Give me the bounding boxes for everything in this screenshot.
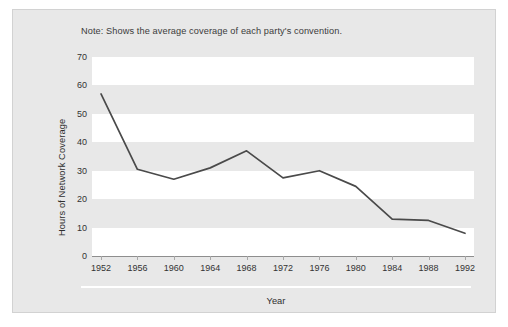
- plot-area: [92, 57, 474, 256]
- x-axis-tick-label: 1968: [227, 263, 267, 273]
- x-axis-tick: [319, 256, 320, 260]
- x-axis-title: Year: [81, 296, 471, 306]
- y-axis-title: Hours of Network Coverage: [57, 36, 67, 236]
- x-axis-tick: [429, 256, 430, 260]
- x-axis-tick-label: 1976: [299, 263, 339, 273]
- x-axis-tick-label: 1960: [154, 263, 194, 273]
- x-axis-tick-labels: 1952195619601964196819721976198019841988…: [92, 263, 474, 277]
- y-axis-tick-label: 10: [65, 223, 87, 233]
- y-axis-tick-label: 40: [65, 137, 87, 147]
- x-axis-tick: [283, 256, 284, 260]
- chart-figure: Note: Shows the average coverage of each…: [12, 9, 496, 313]
- x-axis-tick-label: 1972: [263, 263, 303, 273]
- x-axis-tick-label: 1984: [372, 263, 412, 273]
- x-axis-tick: [101, 256, 102, 260]
- y-axis-tick-label: 30: [65, 166, 87, 176]
- x-axis-tick-label: 1980: [336, 263, 376, 273]
- x-axis-tick: [465, 256, 466, 260]
- x-axis-ticks: [92, 256, 474, 261]
- x-axis-tick-label: 1992: [445, 263, 485, 273]
- x-axis-tick: [174, 256, 175, 260]
- x-axis-tick: [356, 256, 357, 260]
- x-axis-tick-label: 1956: [117, 263, 157, 273]
- y-axis-tick-label: 50: [65, 109, 87, 119]
- chart-note: Note: Shows the average coverage of each…: [81, 26, 342, 36]
- x-axis-tick: [137, 256, 138, 260]
- x-axis-tick: [210, 256, 211, 260]
- series-line-svg: [92, 57, 474, 256]
- x-axis-tick: [247, 256, 248, 260]
- y-axis-tick-label: 60: [65, 80, 87, 90]
- x-axis-divider: [81, 286, 471, 288]
- data-series-line: [101, 94, 465, 233]
- x-axis-tick-label: 1952: [81, 263, 121, 273]
- y-axis-tick-label: 70: [65, 52, 87, 62]
- y-axis-tick-label: 0: [65, 251, 87, 261]
- x-axis-tick-label: 1964: [190, 263, 230, 273]
- x-axis-tick: [392, 256, 393, 260]
- x-axis-tick-label: 1988: [409, 263, 449, 273]
- y-axis-tick-label: 20: [65, 194, 87, 204]
